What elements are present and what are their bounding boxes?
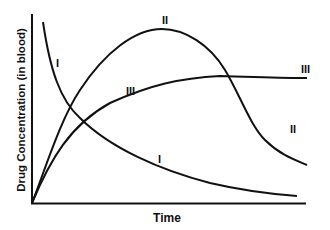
label-II-right: II bbox=[290, 123, 296, 135]
label-I-upper: I bbox=[56, 57, 59, 69]
chart: I I II II III III Time Drug Concentratio… bbox=[0, 0, 330, 230]
label-III-mid: III bbox=[126, 85, 135, 97]
x-axis-title: Time bbox=[153, 211, 181, 225]
label-II-top: II bbox=[162, 14, 168, 26]
curve-I bbox=[43, 22, 297, 196]
y-axis-title: Drug Concentration (in blood) bbox=[15, 28, 27, 192]
curve-II bbox=[32, 29, 307, 203]
label-III-right: III bbox=[301, 63, 310, 75]
label-I-lower: I bbox=[158, 153, 161, 165]
